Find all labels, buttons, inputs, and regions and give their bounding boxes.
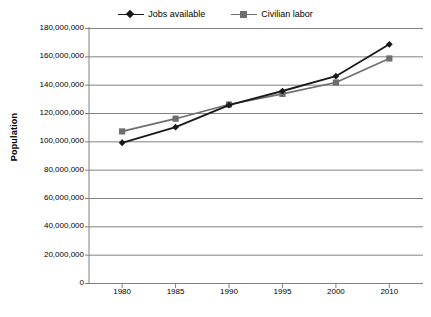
gridlines (89, 29, 423, 256)
x-tick-label: 1995 (259, 287, 305, 297)
data-point-diamond[interactable] (119, 139, 126, 146)
x-tick-label: 1985 (153, 287, 199, 297)
series-line (122, 59, 389, 132)
y-axis-tick-labels: 180,000,000160,000,000140,000,000120,000… (16, 0, 84, 317)
x-tick-label: 1980 (99, 287, 145, 297)
y-tick-label: 80,000,000 (18, 166, 84, 174)
data-point-square[interactable] (119, 128, 125, 134)
y-tick-label: 120,000,000 (18, 109, 84, 117)
plot-area (89, 28, 423, 283)
y-tick-label: 40,000,000 (18, 222, 84, 230)
legend-label-jobs-available: Jobs available (148, 9, 205, 19)
data-point-diamond[interactable] (172, 124, 179, 131)
y-tick-label: 0 (18, 279, 84, 287)
chart-container: Jobs available Civilian labor Population… (0, 0, 431, 317)
y-tick-label: 100,000,000 (18, 137, 84, 145)
data-point-square[interactable] (172, 116, 178, 122)
x-tick-label: 2000 (313, 287, 359, 297)
square-marker-icon (231, 9, 257, 20)
y-tick-label: 60,000,000 (18, 194, 84, 202)
data-point-square[interactable] (333, 79, 339, 85)
legend-item-jobs-available[interactable]: Jobs available (118, 9, 205, 20)
series-line (122, 44, 389, 143)
plot-svg (89, 28, 423, 283)
data-point-square[interactable] (386, 55, 392, 61)
diamond-marker-icon (118, 9, 144, 20)
y-tick-label: 20,000,000 (18, 251, 84, 259)
y-tick-label: 180,000,000 (18, 24, 84, 32)
x-tick-label: 2010 (366, 287, 412, 297)
x-tick-label: 1990 (206, 287, 252, 297)
legend-item-civilian-labor[interactable]: Civilian labor (231, 9, 313, 20)
x-axis-tick-labels: 198019851990199520002010 (89, 287, 431, 303)
legend-label-civilian-labor: Civilian labor (261, 9, 313, 19)
y-tick-label: 160,000,000 (18, 52, 84, 60)
y-tick-label: 140,000,000 (18, 81, 84, 89)
